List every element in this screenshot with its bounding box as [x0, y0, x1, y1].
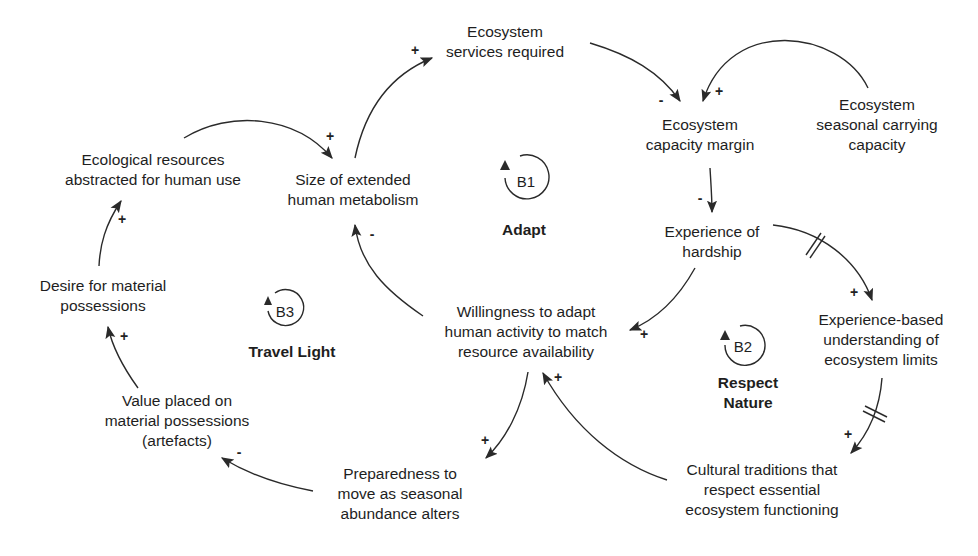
node-experience-understanding: Experience-based understanding of ecosys…: [819, 310, 944, 370]
link-margin-to-hardship: [710, 168, 712, 212]
node-ecological-resources: Ecological resources abstracted for huma…: [65, 150, 241, 190]
delay-mark-3: [863, 411, 885, 422]
node-carrying-capacity: Ecosystem seasonal carrying capacity: [816, 95, 937, 155]
link-traditions-to-willingness: [543, 373, 667, 480]
polarity-carrying-margin: +: [715, 83, 723, 99]
node-preparedness-move: Preparedness to move as seasonal abundan…: [338, 464, 463, 524]
node-willingness-adapt: Willingness to adapt human activity to m…: [445, 302, 608, 362]
polarity-metabolism-services: +: [411, 42, 419, 58]
link-carrying-to-margin: [703, 40, 868, 101]
polarity-traditions-willingness: +: [554, 369, 562, 385]
link-understanding-to-traditions: [851, 378, 882, 453]
loop-b3-label: Travel Light: [249, 342, 336, 362]
node-capacity-margin: Ecosystem capacity margin: [646, 115, 755, 155]
polarity-preparedness-value: -: [237, 444, 242, 460]
link-willingness-to-metabolism: [355, 225, 423, 316]
node-extended-metabolism: Size of extended human metabolism: [288, 170, 419, 210]
link-metabolism-to-services: [355, 58, 432, 158]
node-cultural-traditions: Cultural traditions that respect essenti…: [685, 460, 838, 520]
node-value-possessions: Value placed on material possessions (ar…: [105, 391, 250, 451]
loop-b1-id: B1: [517, 173, 535, 190]
causal-loop-diagram: Ecosystem services required Ecosystem ca…: [0, 0, 978, 556]
polarity-resources-metabolism: +: [326, 128, 334, 144]
node-desire-possessions: Desire for material possessions: [40, 276, 167, 316]
polarity-hardship-willingness: +: [640, 326, 648, 342]
loop-b3-id: B3: [276, 303, 294, 320]
polarity-willingness-preparedness: +: [481, 432, 489, 448]
link-willingness-to-preparedness: [486, 372, 528, 458]
node-hardship: Experience of hardship: [665, 222, 760, 262]
loop-b1-label: Adapt: [502, 220, 546, 240]
loop-b2-arrow-icon: [720, 330, 730, 340]
polarity-hardship-understanding: +: [850, 284, 858, 300]
polarity-value-desire: +: [120, 328, 128, 344]
polarity-margin-hardship: -: [698, 190, 703, 206]
link-hardship-to-willingness: [630, 268, 695, 330]
link-preparedness-to-value: [222, 458, 313, 491]
node-ecosystem-services: Ecosystem services required: [446, 22, 564, 62]
link-services-to-margin: [590, 43, 680, 101]
loop-b3-arrow-icon: [264, 296, 272, 305]
polarity-understanding-traditions: +: [844, 426, 852, 442]
loop-b2-id: B2: [734, 338, 752, 355]
polarity-desire-resources: +: [118, 211, 126, 227]
polarity-willingness-metabolism: -: [370, 226, 375, 242]
polarity-services-margin: -: [659, 92, 664, 108]
loop-b1-arrow-icon: [500, 160, 510, 170]
loop-b2-label: Respect Nature: [718, 373, 778, 413]
